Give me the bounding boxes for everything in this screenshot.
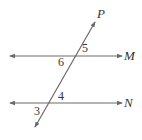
transversal-p: [35, 22, 95, 127]
angle-5-label: 5: [82, 41, 88, 55]
parallel-lines-diagram: P M N 5 6 4 3: [0, 0, 142, 140]
label-m: M: [123, 48, 136, 63]
angle-4-label: 4: [58, 89, 64, 103]
angle-3-label: 3: [34, 104, 40, 118]
angle-6-label: 6: [58, 55, 64, 69]
label-p: P: [96, 6, 105, 21]
label-n: N: [123, 95, 134, 110]
